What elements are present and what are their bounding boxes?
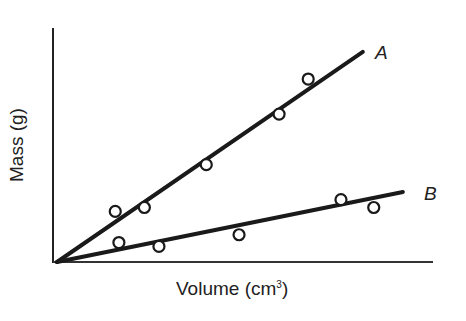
- data-point-a: [139, 202, 150, 213]
- fit-lines: [57, 52, 403, 262]
- data-point-a: [110, 206, 121, 217]
- data-point-a: [303, 74, 314, 85]
- data-point-b: [335, 194, 346, 205]
- data-point-b: [368, 202, 379, 213]
- series-a-label: A: [375, 42, 388, 64]
- y-axis-label: Mass (g): [6, 108, 28, 182]
- data-point-b: [113, 237, 124, 248]
- data-point-b: [234, 229, 245, 240]
- series-b-label: B: [424, 183, 437, 205]
- x-axis-label: Volume (cm3): [176, 278, 288, 300]
- data-point-a: [201, 159, 212, 170]
- data-point-b: [153, 241, 164, 252]
- chart-canvas: [0, 0, 466, 321]
- data-point-a: [274, 109, 285, 120]
